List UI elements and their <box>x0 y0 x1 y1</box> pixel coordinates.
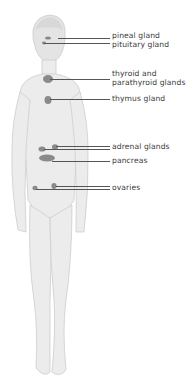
leader-line-adrenal-2 <box>44 149 110 150</box>
leader-line-thymus <box>50 99 110 100</box>
leader-line-pancreas <box>52 161 110 162</box>
leader-line-pineal <box>58 38 110 39</box>
thymus-gland <box>45 96 52 104</box>
pineal-gland <box>45 36 51 39</box>
label-parathyroid: parathyroid glands <box>112 79 185 88</box>
leader-line-ovaries <box>56 186 110 187</box>
label-thymus-gland: thymus gland <box>112 95 165 104</box>
female-body-figure <box>0 0 194 384</box>
label-pancreas: pancreas <box>112 157 148 166</box>
leader-line-ovaries-2 <box>36 189 110 190</box>
leader-line-pituitary <box>44 43 110 44</box>
label-pituitary-gland: pituitary gland <box>112 41 169 50</box>
leader-line-thyroid <box>50 79 110 80</box>
leader-line-adrenal <box>56 146 110 147</box>
label-ovaries: ovaries <box>112 184 140 193</box>
label-adrenal-glands: adrenal glands <box>112 143 170 152</box>
